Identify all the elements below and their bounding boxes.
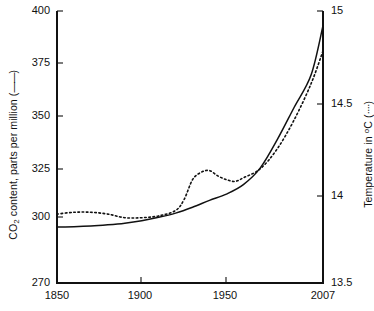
y-axis-left-ticks <box>57 11 63 283</box>
axis-spines <box>57 11 323 283</box>
x-axis-ticks <box>57 277 323 283</box>
series-line-temperature <box>57 51 323 218</box>
series-line-co2 <box>57 26 323 227</box>
